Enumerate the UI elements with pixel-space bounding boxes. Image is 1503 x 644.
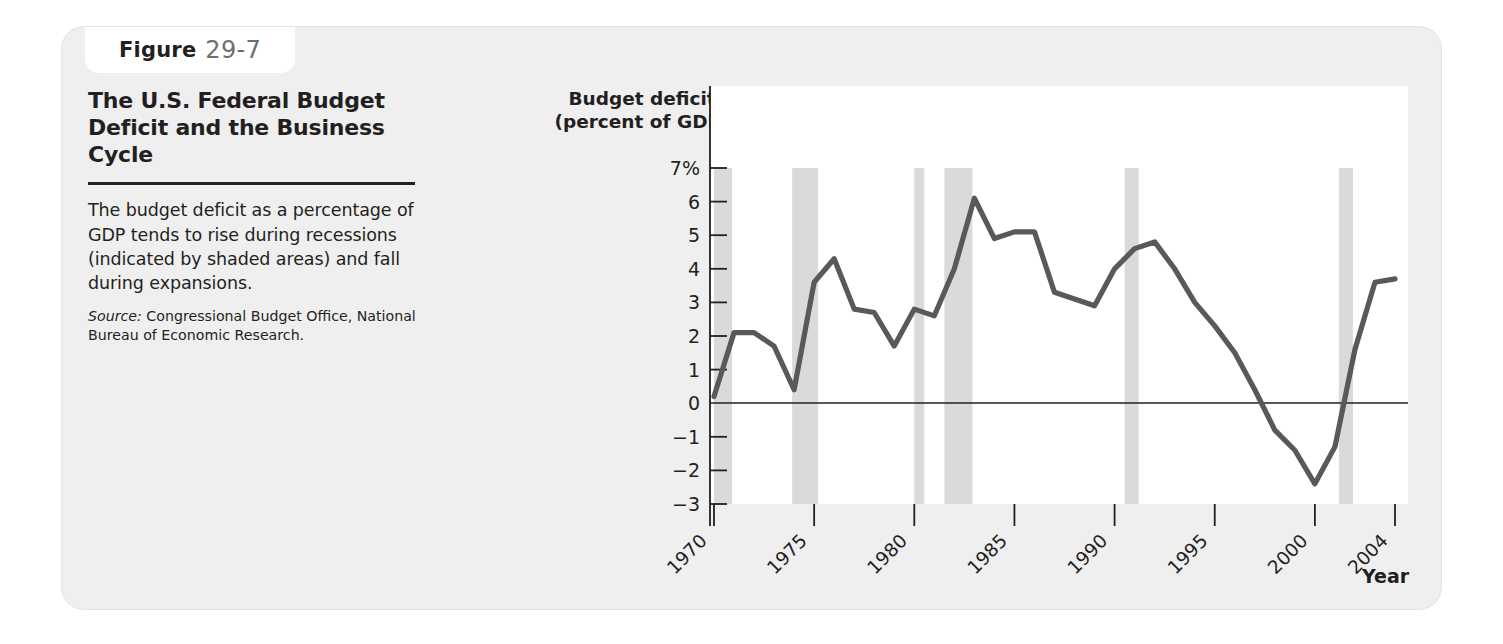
figure-title: The U.S. Federal Budget Deficit and the … bbox=[88, 88, 428, 168]
source-label: Source: bbox=[88, 308, 142, 324]
y-axis-tick-label: 2 bbox=[688, 325, 700, 347]
page-canvas: Figure 29-7 The U.S. Federal Budget Defi… bbox=[0, 0, 1503, 644]
figure-caption: The budget deficit as a percentage of GD… bbox=[88, 198, 428, 295]
figure-label-word: Figure bbox=[119, 38, 196, 62]
y-axis-tick-label: 1 bbox=[688, 359, 700, 381]
y-axis-tick-label: 4 bbox=[688, 258, 700, 280]
caption-column: The U.S. Federal Budget Deficit and the … bbox=[88, 88, 428, 345]
recession-band bbox=[914, 168, 924, 504]
y-axis-tick-label: −1 bbox=[672, 426, 700, 448]
title-divider bbox=[88, 182, 415, 185]
x-axis-tick-label: 1980 bbox=[863, 530, 911, 578]
budget-deficit-line-chart: 7%6543210−1−2−31970197519801985199019952… bbox=[500, 60, 1430, 590]
x-axis-tick-label: 1995 bbox=[1163, 530, 1211, 578]
x-axis-tick-label: 1985 bbox=[963, 530, 1011, 578]
figure-number-tab: Figure 29-7 bbox=[85, 27, 295, 73]
y-axis-tick-label: 7% bbox=[670, 157, 700, 179]
y-axis-tick-label: −3 bbox=[672, 493, 700, 515]
recession-band bbox=[1339, 168, 1353, 504]
x-axis-title: Year bbox=[1362, 565, 1409, 587]
y-axis-tick-label: 5 bbox=[688, 224, 700, 246]
figure-source: Source: Congressional Budget Office, Nat… bbox=[88, 307, 428, 345]
figure-number: 29-7 bbox=[205, 36, 261, 64]
chart-region: Budget deficit (percent of GDP) 7%654321… bbox=[500, 60, 1430, 590]
y-axis-tick-label: 6 bbox=[688, 191, 700, 213]
x-axis-tick-label: 1975 bbox=[763, 530, 811, 578]
recession-band bbox=[1125, 168, 1139, 504]
x-axis-tick-label: 1990 bbox=[1063, 530, 1111, 578]
x-axis-tick-label: 2000 bbox=[1264, 530, 1312, 578]
x-axis-tick-label: 1970 bbox=[663, 530, 711, 578]
y-axis-tick-label: 0 bbox=[688, 392, 700, 414]
y-axis-tick-label: 3 bbox=[688, 291, 700, 313]
y-axis-tick-label: −2 bbox=[672, 459, 700, 481]
